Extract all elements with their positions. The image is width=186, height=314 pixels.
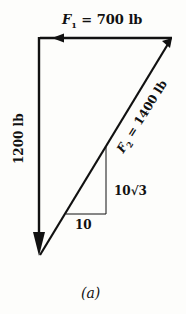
slope-rise-label: 10√3	[114, 184, 147, 198]
f1-force-arrow	[40, 34, 172, 43]
vertical-force-label: 1200 lb	[12, 113, 26, 164]
vertical-force-arrow	[33, 37, 45, 256]
slope-run-label: 10	[75, 218, 92, 232]
f1-symbol: F	[62, 12, 71, 27]
f1-label: F1 = 700 lb	[62, 12, 142, 30]
f2-force-arrow	[40, 38, 172, 255]
figure-caption: (a)	[81, 285, 100, 301]
f1-value: = 700 lb	[77, 12, 143, 27]
force-triangle-diagram	[0, 0, 186, 314]
